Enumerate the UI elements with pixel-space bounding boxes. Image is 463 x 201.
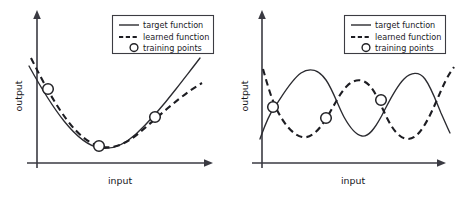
training-point	[43, 84, 54, 95]
left-learned-function-curve	[31, 58, 202, 147]
left-training-points	[43, 84, 161, 152]
panel-poor-fit: target function learned function trainin…	[231, 0, 462, 201]
right-x-axis-arrowhead	[437, 159, 446, 167]
training-point	[321, 113, 332, 124]
right-training-points	[268, 95, 387, 124]
left-plot-svg: target function learned function trainin…	[0, 0, 231, 201]
left-y-axis-arrowhead	[33, 10, 41, 19]
two-panel-figure: target function learned function trainin…	[0, 0, 463, 201]
right-x-axis-label: input	[341, 175, 365, 186]
training-point	[94, 141, 105, 152]
legend-label-target: target function	[375, 20, 435, 30]
open-circle-icon	[362, 44, 370, 52]
right-legend: target function learned function trainin…	[345, 16, 446, 54]
legend-label-points: training points	[375, 43, 434, 53]
panel-good-fit: target function learned function trainin…	[0, 0, 231, 201]
legend-label-points: training points	[143, 43, 202, 53]
legend-label-learned: learned function	[375, 32, 441, 42]
legend-label-target: target function	[143, 20, 203, 30]
left-y-axis-label: output	[13, 80, 24, 111]
training-point	[150, 112, 161, 123]
open-circle-icon	[130, 44, 138, 52]
right-y-axis-label: output	[239, 80, 250, 111]
left-x-axis-arrowhead	[204, 159, 213, 167]
right-learned-function-curve	[263, 67, 454, 139]
left-x-axis-label: input	[108, 175, 132, 186]
right-y-axis-arrowhead	[258, 10, 266, 19]
legend-label-learned: learned function	[143, 32, 209, 42]
right-plot-svg: target function learned function trainin…	[231, 0, 463, 201]
training-point	[268, 102, 279, 113]
training-point	[376, 95, 387, 106]
left-legend: target function learned function trainin…	[113, 16, 214, 54]
